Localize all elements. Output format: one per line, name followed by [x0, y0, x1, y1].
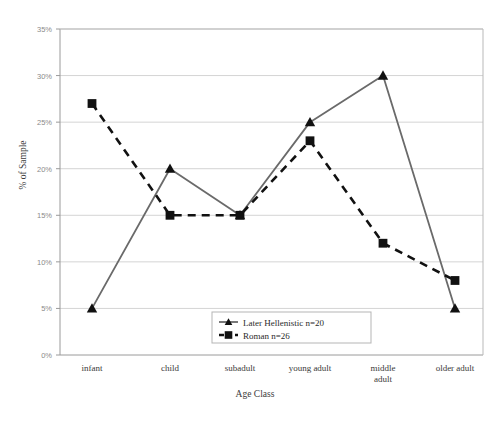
y-axis-tick-label: 25%: [37, 118, 52, 127]
chart-legend[interactable]: Later Hellenistic n=20Roman n=26: [212, 312, 371, 343]
square-icon: [306, 136, 315, 145]
y-axis-title: % of Sample: [18, 140, 28, 189]
x-axis-title: Age Class: [236, 389, 275, 399]
legend-item-label: Roman n=26: [243, 331, 290, 341]
y-axis-tick-label: 0%: [41, 351, 52, 360]
legend-item-label: Later Hellenistic n=20: [243, 318, 325, 328]
line-chart: 0%5%10%15%20%25%30%35% infantchildsubadu…: [0, 0, 500, 423]
x-axis-tick-label: middleadult: [371, 363, 396, 384]
x-axis-tick-label: child: [161, 363, 179, 373]
y-axis-tick-label: 15%: [37, 211, 52, 220]
square-icon: [451, 276, 460, 285]
square-icon: [236, 211, 245, 220]
y-axis-tick-label: 30%: [37, 72, 52, 81]
square-icon: [379, 239, 388, 248]
chart-container: 0%5%10%15%20%25%30%35% infantchildsubadu…: [0, 0, 500, 423]
square-icon: [166, 211, 175, 220]
y-axis-tick-label: 35%: [37, 25, 52, 34]
square-icon: [88, 99, 97, 108]
square-icon: [225, 331, 233, 339]
x-axis-tick-label: subadult: [225, 363, 256, 373]
x-axis-tick-label: young adult: [289, 363, 332, 373]
x-axis-tick-label: infant: [82, 363, 103, 373]
y-axis-tick-label: 10%: [37, 258, 52, 267]
x-axis-tick-label: older adult: [436, 363, 475, 373]
y-axis-tick-label: 20%: [37, 165, 52, 174]
y-axis-tick-label: 5%: [41, 304, 52, 313]
